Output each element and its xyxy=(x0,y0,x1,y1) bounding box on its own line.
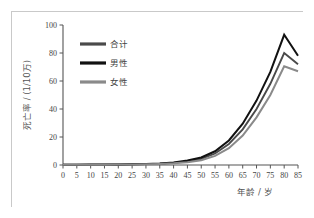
x-tick-label: 15 xyxy=(100,171,108,180)
x-tick-label: 35 xyxy=(156,171,164,180)
y-tick-label: 0 xyxy=(53,161,57,170)
y-tick-label: 40 xyxy=(49,105,57,114)
figure-frame: 020406080100 051015202530354045505560657… xyxy=(11,11,303,207)
x-axis-title: 年龄 / 岁 xyxy=(237,187,272,197)
x-tick-label: 55 xyxy=(211,171,219,180)
x-tick-label: 70 xyxy=(253,171,261,180)
y-axis-title: 死亡率 / (1/10万) xyxy=(22,60,32,130)
x-tick-label: 40 xyxy=(170,171,178,180)
mortality-rate-line-chart: 020406080100 051015202530354045505560657… xyxy=(12,12,304,208)
legend-label-2: 女性 xyxy=(110,77,128,87)
x-tick-label: 45 xyxy=(183,171,191,180)
y-tick-label: 60 xyxy=(49,77,57,86)
x-tick-label: 30 xyxy=(142,171,150,180)
x-tick-label: 65 xyxy=(239,171,247,180)
x-tick-label: 25 xyxy=(128,171,136,180)
x-tick-label: 75 xyxy=(266,171,274,180)
y-tick-label: 20 xyxy=(49,133,57,142)
x-tick-label: 80 xyxy=(280,171,288,180)
x-tick-label: 5 xyxy=(75,171,79,180)
x-tick-label: 85 xyxy=(294,171,302,180)
y-tick-label: 100 xyxy=(45,21,57,30)
y-tick-label: 80 xyxy=(49,49,57,58)
x-tick-label: 10 xyxy=(87,171,95,180)
x-tick-label: 20 xyxy=(114,171,122,180)
x-tick-label: 0 xyxy=(61,171,65,180)
chart-canvas: 020406080100 051015202530354045505560657… xyxy=(12,12,304,208)
x-tick-label: 60 xyxy=(225,171,233,180)
legend-label-0: 合计 xyxy=(110,39,128,49)
x-tick-label: 50 xyxy=(197,171,205,180)
legend-label-1: 男性 xyxy=(110,58,128,68)
